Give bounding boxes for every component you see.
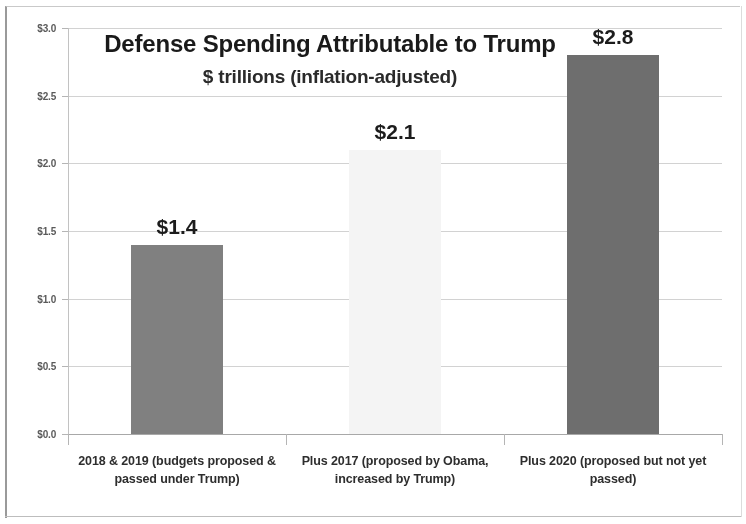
bar-value-label: $1.4 [157,215,198,239]
x-axis-tick [286,434,287,445]
y-axis-tick-label: $0.5 [8,361,56,372]
x-axis-tick [68,434,69,445]
chart-screenshot: $3.0$2.5$2.0$1.5$1.0$0.5$0.0 $1.4$2.1$2.… [0,0,746,524]
chart-title: Defense Spending Attributable to Trump [80,30,580,58]
y-axis-tick-label: $3.0 [8,23,56,34]
y-axis-tick-label: $1.0 [8,293,56,304]
page-border-bottom [5,516,741,517]
bar-value-label: $2.1 [375,120,416,144]
y-axis-tick-label: $0.0 [8,429,56,440]
x-axis-category-label: 2018 & 2019 (budgets proposed & passed u… [74,452,280,488]
y-axis-tick-label: $1.5 [8,226,56,237]
bar [131,245,223,434]
x-axis-line [68,434,722,435]
x-axis-category-label: Plus 2017 (proposed by Obama, increased … [292,452,498,488]
y-axis-tick-label: $2.0 [8,158,56,169]
x-axis-category-label: Plus 2020 (proposed but not yet passed) [510,452,716,488]
page-border-right [741,6,742,517]
y-axis-line [68,28,69,434]
bar [567,55,659,434]
y-axis-tick-label: $2.5 [8,90,56,101]
chart-subtitle: $ trillions (inflation-adjusted) [80,66,580,88]
x-axis-tick [722,434,723,445]
bar [349,150,441,434]
x-axis-tick [504,434,505,445]
bar-value-label: $2.8 [593,25,634,49]
